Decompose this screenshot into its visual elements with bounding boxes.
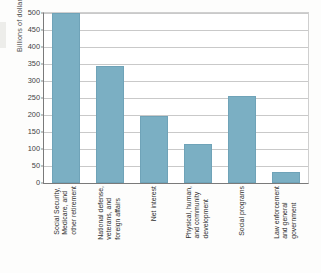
y-tick-label: 500	[28, 9, 40, 16]
y-tick-label: 50	[32, 162, 40, 169]
x-tick-label-line: other retirement	[70, 186, 78, 235]
x-tick-label: Net interest	[150, 186, 158, 221]
y-tick-label: 150	[28, 128, 40, 135]
x-tick-label: Social programs	[238, 186, 246, 236]
bar	[96, 66, 123, 183]
y-tick-label: 300	[28, 77, 40, 84]
x-tick-label-line: Medicare, and	[62, 186, 70, 235]
x-tick-label-line: foreign affairs	[114, 186, 122, 240]
y-tick-label: 0	[36, 179, 40, 186]
x-tick-label-line: Social Security,	[53, 186, 61, 235]
x-tick-label-line: government	[290, 186, 298, 239]
x-tick-label: National defense,veterans, andforeign af…	[97, 186, 122, 240]
x-tick-label-slot: Net interest	[132, 186, 176, 273]
x-tick-label-slot: Social programs	[220, 186, 264, 273]
y-axis-tick-labels: 500450400350300250200150100500	[22, 12, 40, 184]
x-tick-label-line: Law enforcement	[273, 186, 281, 239]
x-tick-label-line: Net interest	[150, 186, 158, 221]
plot-area	[43, 12, 309, 184]
x-tick-label-line: Social programs	[238, 186, 246, 236]
bar	[184, 144, 211, 183]
x-tick-label-slot: Physical, human,and communitydevelopment	[176, 186, 220, 273]
bar	[140, 116, 167, 183]
x-tick-label-line: and community	[194, 186, 202, 238]
x-tick-label-line: development	[202, 186, 210, 238]
x-tick-label-slot: National defense,veterans, andforeign af…	[88, 186, 132, 273]
bars-series	[44, 13, 308, 183]
x-tick-label-slot: Law enforcementand generalgovernment	[264, 186, 308, 273]
bar-chart-figure: Billions of dollars 50045040035030025020…	[0, 0, 321, 273]
y-tick-label: 450	[28, 26, 40, 33]
page-edge-artifact	[0, 22, 6, 48]
x-tick-label: Law enforcementand generalgovernment	[273, 186, 298, 239]
y-tick-label: 400	[28, 43, 40, 50]
x-tick-label-line: and general	[282, 186, 290, 239]
x-tick-label-line: Physical, human,	[185, 186, 193, 238]
bar	[272, 172, 299, 183]
x-tick-label: Physical, human,and communitydevelopment	[185, 186, 210, 238]
x-tick-label: Social Security,Medicare, andother retir…	[53, 186, 78, 235]
x-tick-label-line: National defense,	[97, 186, 105, 240]
x-tick-label-slot: Social Security,Medicare, andother retir…	[44, 186, 88, 273]
y-tick-label: 100	[28, 145, 40, 152]
y-tick-label: 200	[28, 111, 40, 118]
bar	[52, 13, 79, 183]
x-tick-label-line: veterans, and	[106, 186, 114, 240]
y-tick-label: 250	[28, 94, 40, 101]
x-axis-tick-labels: Social Security,Medicare, andother retir…	[43, 186, 309, 273]
bar	[228, 96, 255, 183]
y-tick-label: 350	[28, 60, 40, 67]
